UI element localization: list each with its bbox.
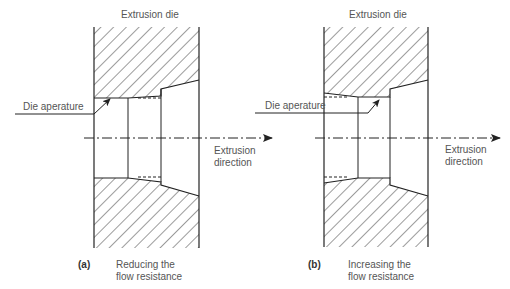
panel-a-upper-die-section xyxy=(94,27,199,98)
panel-b-tag: (b) xyxy=(308,259,321,271)
panel-b-caption-line2: flow resistance xyxy=(348,271,414,283)
panel-a-aperture-label: Die aperature xyxy=(23,101,84,113)
panel-b-direction-label-line2: direction xyxy=(445,156,483,168)
panel-a-tag: (a) xyxy=(78,259,90,271)
panel-b-caption-line1: Increasing the xyxy=(348,259,411,271)
panel-a-direction-label-line2: direction xyxy=(214,157,252,169)
panel-b-die xyxy=(324,27,428,247)
panel-b-direction-label-line1: Extrusion xyxy=(445,144,487,156)
panel-a-caption-line1: Reducing the xyxy=(116,259,175,271)
panel-a-lower-die-section xyxy=(94,178,199,248)
panel-b-lower-die-section xyxy=(324,178,428,247)
panel-b-die-title: Extrusion die xyxy=(349,9,407,21)
panel-b-upper-die-section xyxy=(324,27,428,97)
panel-a-caption-line2: flow resistance xyxy=(116,271,182,283)
panel-a-die-title: Extrusion die xyxy=(121,9,179,21)
panel-b-aperture-label: Die aperature xyxy=(265,100,326,112)
panel-a-direction-label-line1: Extrusion xyxy=(214,145,256,157)
